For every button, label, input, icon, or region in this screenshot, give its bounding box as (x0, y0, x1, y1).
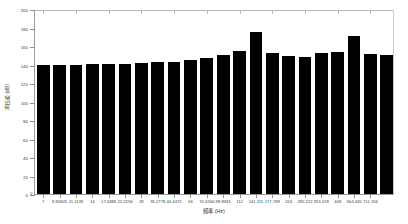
x-tick-label: 141.111 (249, 199, 264, 204)
y-tick-label: 120 (21, 82, 28, 87)
y-tick-label: 100 (21, 100, 28, 105)
y-tick-label: 20 (23, 174, 28, 179)
bar (184, 60, 197, 194)
y-tick-label: 80 (23, 119, 28, 124)
bar (315, 53, 328, 194)
bar (53, 65, 66, 195)
x-tick-label: 17.6389 (101, 199, 116, 204)
x-axis-title: 频率 (Hz) (34, 207, 394, 215)
x-tick-label: 7 (42, 199, 44, 204)
x-tick (338, 194, 339, 198)
bar (102, 64, 115, 194)
chart-figure: 声压级 (dB) 020406080100120140160180200 78.… (0, 0, 408, 224)
x-tick-label: 112 (236, 199, 243, 204)
x-tick-label: 711.156 (363, 199, 378, 204)
x-tick (109, 194, 110, 198)
x-tick (370, 194, 371, 198)
x-tick (223, 194, 224, 198)
x-tick (60, 194, 61, 198)
y-axis-title: 声压级 (dB) (3, 84, 10, 110)
bar (233, 51, 246, 194)
bar (200, 58, 213, 194)
y-tick-label: 0 (26, 193, 28, 198)
bar (168, 62, 181, 194)
x-tick (256, 194, 257, 198)
bar (151, 62, 164, 194)
x-tick (174, 194, 175, 198)
y-tick-label: 200 (21, 8, 28, 13)
x-tick-label: 44.4472 (167, 199, 182, 204)
x-tick (92, 194, 93, 198)
y-tick-label: 160 (21, 45, 28, 50)
x-tick-label: 14 (90, 199, 95, 204)
x-tick-label: 282.222 (297, 199, 312, 204)
plot-area: 020406080100120140160180200 78.8184511.1… (34, 10, 394, 195)
bar (70, 65, 83, 195)
x-tick-label: 88.8945 (216, 199, 231, 204)
bar (135, 63, 148, 194)
x-tick-label: 56 (188, 199, 193, 204)
x-tick (125, 194, 126, 198)
bar (282, 56, 295, 194)
x-tick-label: 355.578 (314, 199, 329, 204)
x-tick-label: 11.1139 (69, 199, 84, 204)
x-tick (321, 194, 322, 198)
x-tick (289, 194, 290, 198)
y-tick-label: 40 (23, 156, 28, 161)
bar-series (35, 10, 394, 194)
bar (37, 65, 50, 195)
y-tick-label: 140 (21, 63, 28, 68)
x-tick-label: 22.2256 (117, 199, 132, 204)
x-origin-label: 0 (30, 191, 32, 196)
x-tick-label: 564.445 (347, 199, 362, 204)
bar (364, 54, 377, 194)
x-tick-label: 28 (139, 199, 144, 204)
x-tick-label: 70.5556 (199, 199, 214, 204)
x-tick-label: 224 (285, 199, 292, 204)
x-tick-label: 177.789 (265, 199, 280, 204)
bar (217, 55, 230, 194)
y-tick-label: 180 (21, 26, 28, 31)
bar (266, 53, 279, 194)
x-tick (272, 194, 273, 198)
x-tick (76, 194, 77, 198)
y-tick-label: 60 (23, 137, 28, 142)
x-tick (141, 194, 142, 198)
x-tick (354, 194, 355, 198)
x-tick (43, 194, 44, 198)
bar (299, 57, 312, 194)
bar (380, 55, 393, 194)
bar (119, 64, 132, 194)
x-tick-label: 448 (334, 199, 341, 204)
bar (348, 36, 361, 194)
x-tick (240, 194, 241, 198)
bar (250, 32, 263, 194)
x-tick (207, 194, 208, 198)
x-tick (190, 194, 191, 198)
bar (331, 52, 344, 194)
x-tick-label: 35.2778 (150, 199, 165, 204)
x-tick-label: 8.81845 (52, 199, 67, 204)
x-tick (305, 194, 306, 198)
x-tick (158, 194, 159, 198)
bar (86, 64, 99, 194)
